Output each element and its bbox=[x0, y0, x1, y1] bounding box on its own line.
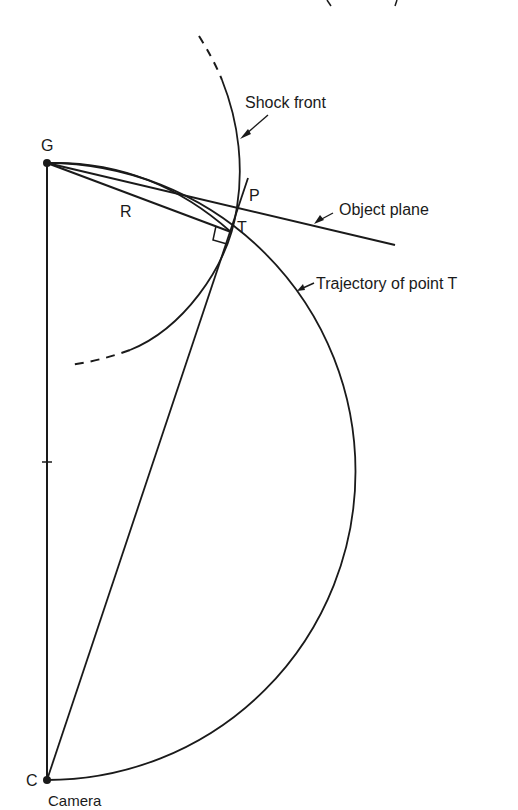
trajectory-arrowhead bbox=[297, 284, 305, 291]
trajectory-arc bbox=[47, 163, 356, 780]
shock-front-dashed-bottom bbox=[70, 350, 130, 365]
point-r-label: R bbox=[120, 203, 132, 220]
camera-label: Camera bbox=[48, 792, 102, 809]
diagram-canvas: Shock front G R P T Object plane Traject… bbox=[0, 0, 518, 810]
shock-front-dashed-top bbox=[199, 36, 222, 80]
point-p-label: P bbox=[249, 187, 260, 204]
camera-ray-line bbox=[47, 178, 248, 780]
point-g-dot bbox=[43, 159, 51, 167]
shock-front-label: Shock front bbox=[245, 94, 326, 111]
object-plane-arrowhead bbox=[314, 215, 324, 224]
trajectory-leader bbox=[303, 283, 314, 288]
point-t-label: T bbox=[237, 219, 247, 236]
point-c-label: C bbox=[26, 772, 38, 789]
header-fragment-mark bbox=[395, 0, 397, 6]
point-c-dot bbox=[43, 776, 51, 784]
object-plane-label: Object plane bbox=[339, 201, 429, 218]
header-fragment-mark bbox=[327, 0, 331, 6]
point-g-label: G bbox=[41, 137, 53, 154]
trajectory-label: Trajectory of point T bbox=[316, 275, 458, 292]
radius-line-r bbox=[47, 163, 231, 232]
